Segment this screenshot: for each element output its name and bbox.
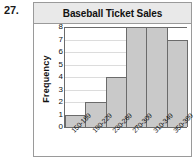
bar [146, 27, 167, 127]
y-axis-tick-label: 5 [59, 61, 63, 69]
y-axis-tick-label: 1 [59, 111, 63, 119]
y-axis-tick-label: 2 [59, 98, 63, 106]
y-axis-tick-label: 4 [59, 73, 63, 81]
y-axis-title: Frequency [39, 29, 53, 129]
y-axis-tick-label: 3 [59, 86, 63, 94]
y-axis-tick-label: 0 [59, 123, 63, 131]
y-axis-tick-label: 6 [59, 48, 63, 56]
chart-panel: Baseball Ticket Sales Frequency 01234567… [33, 2, 192, 157]
y-axis-tick-label: 7 [59, 36, 63, 44]
problem-number: 27. [4, 4, 19, 16]
x-axis-ticks: 150-189190-229230-269270-309310-349350-3… [64, 129, 186, 157]
chart-title: Baseball Ticket Sales [63, 8, 162, 19]
y-axis-title-text: Frequency [41, 55, 51, 102]
chart-title-band: Baseball Ticket Sales [34, 3, 191, 24]
y-axis-ticks: 012345678 [53, 27, 63, 127]
y-axis-tick-label: 8 [59, 23, 63, 31]
